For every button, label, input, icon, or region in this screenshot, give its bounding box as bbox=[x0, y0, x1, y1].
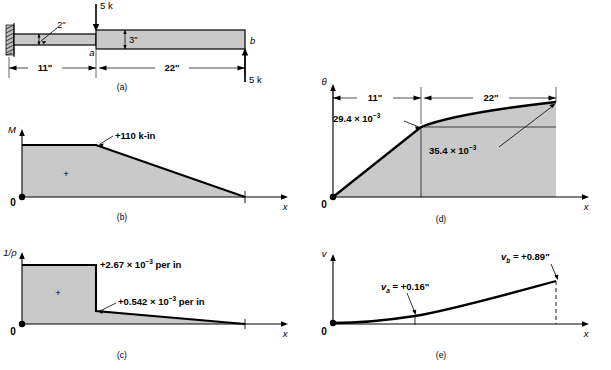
moment-peak-label: +110 k-in bbox=[115, 130, 156, 141]
curvature-low-label: +0.542 × 10−3 per in bbox=[118, 295, 205, 307]
moment-peak-leader bbox=[99, 136, 113, 147]
beam-left-segment bbox=[14, 34, 96, 45]
point-b-label: b bbox=[250, 35, 255, 46]
panel-e-deflection-diagram: v x 0 va = +0.16" vb = +0.89" (e) bbox=[311, 233, 611, 370]
panel-e-caption: (e) bbox=[436, 350, 447, 360]
deflection-y-axis bbox=[330, 254, 336, 324]
depth-right-label: 3" bbox=[129, 34, 138, 45]
rotation-origin-label: 0 bbox=[321, 199, 327, 210]
deflection-label-vb-leader bbox=[551, 264, 558, 280]
curvature-x-axis-label: x bbox=[282, 328, 289, 339]
rotation-dim-right-label: 22" bbox=[483, 92, 498, 103]
rotation-origin-dot bbox=[330, 194, 336, 200]
deflection-curve bbox=[333, 281, 556, 323]
depth-left-label: 2" bbox=[57, 19, 66, 30]
deflection-origin-label: 0 bbox=[321, 326, 327, 337]
panel-b-moment-diagram: M x 0 + +110 k-in (b) bbox=[0, 100, 300, 225]
rotation-dim-left-label: 11" bbox=[368, 92, 383, 103]
rotation-label-a: 29.4 × 10−3 bbox=[333, 112, 381, 124]
moment-area-fill bbox=[22, 145, 245, 197]
panel-a-beam-diagram: 2" 3" 5 k 5 k a b 11" 22" (a) bbox=[0, 0, 300, 96]
moment-plus-sign: + bbox=[63, 168, 69, 179]
panel-a-caption: (a) bbox=[117, 82, 128, 92]
rotation-x-axis-label: x bbox=[583, 201, 590, 212]
panel-c-curvature-diagram: 1/ρ x 0 + +2.67 × 10−3 per in +0.542 × 1… bbox=[0, 233, 300, 370]
panel-d-caption: (d) bbox=[436, 214, 447, 224]
moment-origin-dot bbox=[19, 194, 25, 200]
dimension-left-label: 11" bbox=[38, 62, 53, 73]
deflection-origin-dot bbox=[330, 320, 336, 326]
deflection-x-axis-label: x bbox=[583, 328, 590, 339]
applied-load-label: 5 k bbox=[100, 0, 113, 11]
panel-d-rotation-diagram: θ x 0 11" 22" 29.4 × 10−3 35.4 × 10−3 bbox=[311, 76, 611, 225]
curvature-high-label: +2.67 × 10−3 per in bbox=[100, 258, 182, 270]
panel-c-caption: (c) bbox=[117, 350, 127, 360]
rotation-label-a-leader bbox=[404, 121, 421, 130]
fixed-support-wall bbox=[6, 23, 14, 57]
curvature-origin-dot bbox=[19, 321, 25, 327]
moment-y-axis-label: M bbox=[8, 124, 16, 135]
reaction-label: 5 k bbox=[249, 74, 262, 85]
beam-right-segment bbox=[96, 30, 245, 49]
rotation-y-axis-label: θ bbox=[321, 76, 327, 87]
curvature-origin-label: 0 bbox=[10, 326, 16, 337]
moment-origin-label: 0 bbox=[10, 197, 16, 208]
applied-load-arrow bbox=[93, 4, 99, 31]
dimension-right-label: 22" bbox=[164, 62, 179, 73]
deflection-label-va: va = +0.16" bbox=[381, 281, 429, 294]
curvature-y-axis-label: 1/ρ bbox=[3, 247, 17, 258]
moment-x-axis-label: x bbox=[282, 201, 289, 212]
point-a-label: a bbox=[89, 47, 94, 58]
panel-b-caption: (b) bbox=[117, 212, 128, 222]
deflection-label-va-leader bbox=[407, 293, 416, 315]
dimension-left-11in bbox=[9, 62, 96, 74]
deflection-y-axis-label: v bbox=[322, 248, 328, 259]
deflection-label-vb: vb = +0.89" bbox=[501, 251, 550, 264]
curvature-plus-sign: + bbox=[55, 287, 61, 298]
